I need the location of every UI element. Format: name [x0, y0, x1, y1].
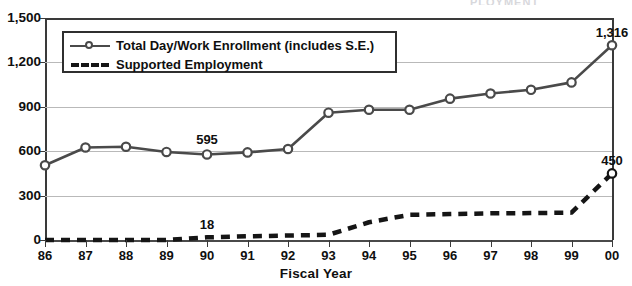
series-line-2 [45, 173, 612, 240]
x-axis-tick [86, 240, 87, 247]
y-axis-tick-label: 300 [18, 189, 41, 203]
x-axis-tick [612, 240, 613, 247]
data-point-marker [203, 150, 211, 158]
legend-entry-total-enrollment: Total Day/Work Enrollment (includes S.E.… [70, 36, 389, 55]
x-axis-title: Fiscal Year [0, 266, 632, 281]
cutoff-header-text: PLOYMENT [470, 0, 620, 5]
data-point-marker [527, 86, 535, 94]
x-axis-tick-label: 96 [443, 249, 457, 262]
x-axis-tick-label: 89 [159, 249, 173, 262]
legend-label-supported-employment: Supported Employment [116, 58, 263, 71]
x-axis-tick [207, 240, 208, 247]
data-point-marker [608, 169, 616, 177]
y-axis-tick-label: 900 [18, 100, 41, 114]
x-axis-tick-label: 99 [564, 249, 578, 262]
data-label: 450 [601, 154, 623, 167]
x-axis-tick [167, 240, 168, 247]
y-axis-tick [40, 151, 45, 152]
x-axis-tick [369, 240, 370, 247]
data-point-marker [41, 161, 49, 169]
x-axis-tick-label: 92 [281, 249, 295, 262]
x-axis-tick [450, 240, 451, 247]
data-point-marker [122, 143, 130, 151]
x-axis-tick [329, 240, 330, 247]
data-label: 18 [200, 218, 214, 231]
chart-legend: Total Day/Work Enrollment (includes S.E.… [62, 31, 397, 73]
data-point-marker [486, 89, 494, 97]
x-axis-tick-label: 88 [119, 249, 133, 262]
data-label: 595 [196, 133, 218, 146]
x-axis-tick-label: 95 [402, 249, 416, 262]
x-axis-tick-label: 87 [78, 249, 92, 262]
y-axis-right-line [612, 18, 614, 240]
data-point-marker [162, 148, 170, 156]
y-axis-tick [40, 62, 45, 63]
x-axis-tick [126, 240, 127, 247]
data-point-marker [81, 143, 89, 151]
x-axis-tick-label: 93 [321, 249, 335, 262]
x-axis-tick [45, 240, 46, 247]
chart-container: PLOYMENT 03006009001,2001,500 595181,316… [0, 0, 632, 286]
data-point-marker [284, 145, 292, 153]
y-axis-tick-label: 600 [18, 144, 41, 158]
data-point-marker [608, 41, 616, 49]
y-axis-tick [40, 18, 45, 19]
y-axis-tick [40, 107, 45, 108]
x-axis-ticks [45, 240, 612, 248]
legend-key-dashed-line-icon [70, 59, 110, 71]
data-point-marker [324, 109, 332, 117]
y-axis-labels: 03006009001,2001,500 [0, 18, 41, 240]
y-axis-tick-label: 1,500 [7, 11, 41, 25]
legend-key-solid-line-icon [70, 40, 110, 52]
x-axis-tick-label: 90 [200, 249, 214, 262]
x-axis-tick [410, 240, 411, 247]
x-axis-tick-label: 00 [605, 249, 619, 262]
x-axis-tick [491, 240, 492, 247]
y-axis-tick-label: 1,200 [7, 56, 41, 70]
y-axis-tick [40, 196, 45, 197]
data-label: 1,316 [596, 26, 629, 39]
data-point-marker [405, 106, 413, 114]
legend-label-total-enrollment: Total Day/Work Enrollment (includes S.E.… [116, 39, 374, 52]
data-point-marker [365, 106, 373, 114]
x-axis-tick-label: 98 [524, 249, 538, 262]
x-axis-tick-label: 86 [38, 249, 52, 262]
x-axis-labels: 868788899091929394959697989900 [45, 249, 612, 267]
x-axis-tick-label: 91 [240, 249, 254, 262]
x-axis-tick [248, 240, 249, 247]
x-axis-tick [531, 240, 532, 247]
data-point-marker [567, 78, 575, 86]
x-axis-tick-label: 94 [362, 249, 376, 262]
x-axis-tick [572, 240, 573, 247]
data-point-marker [243, 148, 251, 156]
data-point-marker [446, 94, 454, 102]
x-axis-tick [288, 240, 289, 247]
x-axis-tick-label: 97 [483, 249, 497, 262]
legend-entry-supported-employment: Supported Employment [70, 55, 389, 74]
